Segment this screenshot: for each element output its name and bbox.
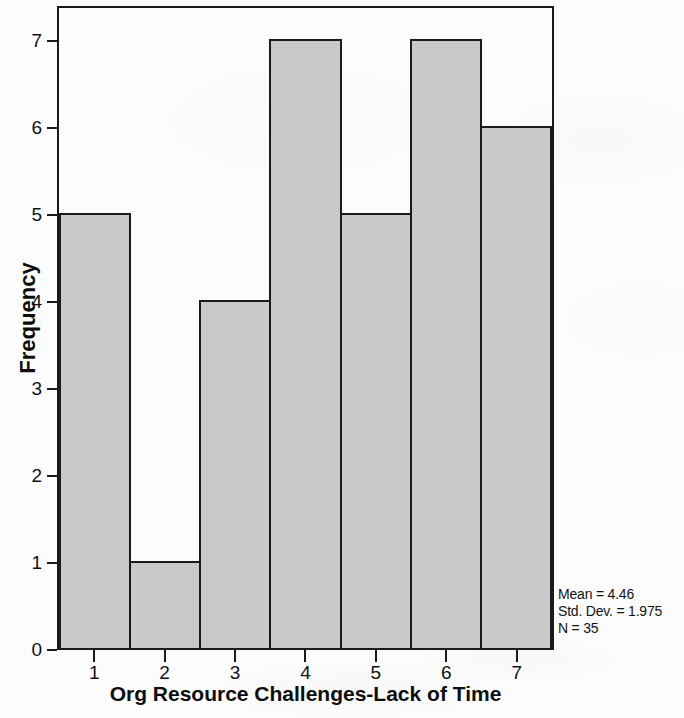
y-tick-mark [47,562,57,564]
y-tick-label: 1 [31,553,42,572]
x-axis-title: Org Resource Challenges-Lack of Time [57,682,554,706]
x-axis-tick: 6 [411,650,481,684]
y-tick-mark [47,301,57,303]
x-tick-mark [234,650,236,662]
y-tick-mark [47,127,57,129]
x-tick-mark [164,650,166,662]
x-tick-label: 1 [59,662,129,684]
bar-2 [129,561,201,648]
x-tick-mark [375,650,377,662]
x-tick-label: 4 [270,662,340,684]
x-tick-label: 2 [129,662,199,684]
bar-3 [199,300,271,648]
x-tick-mark [304,650,306,662]
y-tick-label: 7 [31,31,42,50]
bar-4 [269,39,341,648]
bar-1 [59,213,131,648]
stat-std-dev: Std. Dev. = 1.975 [558,603,684,620]
y-tick-mark [47,475,57,477]
stat-n: N = 35 [558,620,684,637]
bar-series [59,8,552,648]
x-tick-label: 6 [411,662,481,684]
x-axis-tick: 2 [129,650,199,684]
x-tick-label: 3 [200,662,270,684]
x-axis-tick: 3 [200,650,270,684]
y-axis-title: Frequency [15,198,41,438]
y-tick-label: 6 [31,118,42,137]
y-tick-mark [47,214,57,216]
bar-5 [340,213,412,648]
x-tick-mark [516,650,518,662]
y-tick-label: 0 [31,640,42,659]
x-axis-tick: 4 [270,650,340,684]
x-tick-label: 7 [482,662,552,684]
bar-7 [480,126,552,648]
x-tick-mark [93,650,95,662]
x-axis-ticks: 1 2 3 4 5 6 7 [59,650,552,684]
stat-mean: Mean = 4.46 [558,586,684,603]
y-tick-label: 2 [31,466,42,485]
y-tick-mark [47,388,57,390]
x-tick-mark [445,650,447,662]
x-tick-label: 5 [341,662,411,684]
y-tick-mark [47,649,57,651]
x-axis-tick: 1 [59,650,129,684]
histogram-chart: 0 1 2 3 4 5 6 7 Fr [0,0,684,718]
bar-6 [410,39,482,648]
x-axis-tick: 5 [341,650,411,684]
x-axis-tick: 7 [482,650,552,684]
y-tick-mark [47,40,57,42]
statistics-annotation: Mean = 4.46 Std. Dev. = 1.975 N = 35 [558,586,684,637]
